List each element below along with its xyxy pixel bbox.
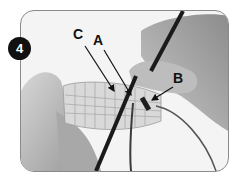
label-a: A <box>93 33 103 47</box>
label-c: C <box>73 27 83 41</box>
photo-frame <box>20 10 229 172</box>
label-b: B <box>173 71 183 85</box>
photo-illustration <box>21 11 228 171</box>
step-number-badge: 4 <box>8 37 31 60</box>
